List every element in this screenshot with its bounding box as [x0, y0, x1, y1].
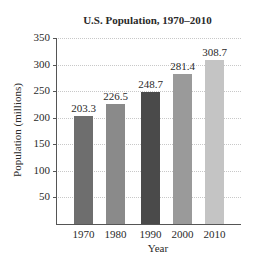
- bar-value-label: 203.3: [64, 103, 104, 114]
- y-tick-label: 250: [20, 85, 50, 96]
- bar-1980: [106, 104, 125, 224]
- y-tick-label: 100: [20, 165, 50, 176]
- y-tick: [53, 91, 57, 92]
- y-tick: [53, 197, 57, 198]
- y-tick-label: 350: [20, 32, 50, 43]
- y-axis-line: [56, 38, 57, 224]
- bar-value-label: 248.7: [131, 79, 171, 90]
- bar-value-label: 308.7: [195, 47, 235, 58]
- y-tick: [53, 144, 57, 145]
- bar-2010: [205, 60, 224, 224]
- x-axis-line: [56, 224, 241, 225]
- bar-1970: [74, 116, 93, 224]
- x-axis-title: Year: [128, 242, 188, 254]
- y-tick-label: 200: [20, 112, 50, 123]
- chart-title: U.S. Population, 1970–2010: [0, 14, 255, 26]
- y-axis-title: Population (millions): [11, 75, 23, 185]
- y-tick: [53, 65, 57, 66]
- bar-value-label: 226.5: [96, 91, 136, 102]
- bar-1990: [141, 92, 160, 224]
- bar-value-label: 281.4: [163, 61, 203, 72]
- y-tick: [53, 171, 57, 172]
- x-tick-label: 2010: [195, 229, 235, 240]
- y-tick-label: 150: [20, 138, 50, 149]
- gridline: [56, 38, 241, 39]
- y-tick-label: 300: [20, 59, 50, 70]
- y-tick: [53, 118, 57, 119]
- y-tick-label: 50: [20, 191, 50, 202]
- bar-2000: [173, 74, 192, 224]
- y-tick: [53, 38, 57, 39]
- x-tick-label: 1980: [96, 229, 136, 240]
